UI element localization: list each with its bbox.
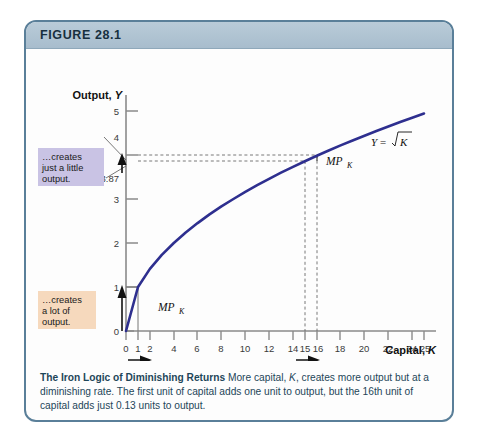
mpk-label-right: MP K (325, 155, 353, 170)
curve-label: Y= K (371, 132, 412, 148)
svg-text:MP: MP (325, 155, 343, 167)
x-tick-label-8: 8 (218, 343, 223, 354)
x-tick-label-10: 10 (240, 343, 251, 354)
y-tick-label-0: 0 (114, 326, 119, 337)
x-tick-label-16: 16 (313, 343, 324, 354)
svg-text:K: K (178, 307, 185, 316)
svg-text:K: K (346, 161, 353, 170)
arrow-sixteenth-unit-icon (296, 356, 320, 362)
figure-header-bar: FIGURE 28.1 (26, 22, 452, 49)
x-tick-label-14: 14 (288, 343, 299, 354)
note-lots-output-line-2: a lot of (42, 306, 70, 316)
figure-panel: FIGURE 28.1 0 1 2 3 4 5 3.87 (24, 20, 454, 422)
figure-title: FIGURE 28.1 (40, 28, 122, 42)
x-tick-label-20: 20 (359, 343, 370, 354)
mpk-label-left: MP K (157, 301, 185, 316)
x-tick-label-4: 4 (171, 343, 176, 354)
figure-caption: The Iron Logic of Diminishing Returns Mo… (40, 371, 444, 414)
caption-title: The Iron Logic of Diminishing Returns (40, 372, 225, 383)
note-lots-output-line-1: …creates (42, 295, 82, 305)
chart-plot-area: 0 1 2 3 4 5 3.87 (26, 49, 454, 361)
y-tick-label-5: 5 (114, 106, 119, 117)
x-tick-label-6: 6 (194, 343, 199, 354)
arrow-first-unit-icon (128, 356, 152, 362)
diminishing-returns-chart: 0 1 2 3 4 5 3.87 (26, 49, 454, 361)
y-axis-title: Output, Y (73, 89, 124, 101)
svg-text:Y=: Y= (371, 136, 387, 148)
x-tick-label-12: 12 (264, 343, 275, 354)
caption-body-1: More capital, (228, 372, 289, 383)
svg-text:MP: MP (157, 301, 175, 313)
y-tick-label-2: 2 (114, 238, 119, 249)
note-little-output: …creates just a little output. (38, 148, 104, 186)
curve-label-radicand: K (399, 136, 408, 148)
note-lots-output: …creates a lot of output. (38, 291, 96, 329)
note-lots-output-line-3: output. (42, 317, 70, 327)
x-tick-label-2: 2 (147, 343, 152, 354)
x-tick-label-15: 15 (300, 343, 311, 354)
y-tick-label-3: 3 (114, 194, 119, 205)
note-little-output-line-1: …creates (42, 152, 82, 162)
x-axis-title: Capital, K (385, 344, 437, 356)
note-little-output-line-2: just a little (41, 163, 83, 173)
x-tick-label-18: 18 (335, 343, 346, 354)
x-tick-label-1: 1 (135, 343, 140, 354)
x-axis-ticks (126, 331, 424, 340)
x-tick-label-0: 0 (123, 343, 128, 354)
caption-var-k: K (289, 372, 296, 383)
y-tick-label-4: 4 (114, 132, 119, 143)
y-tick-label-1: 1 (114, 282, 119, 293)
note-little-output-line-3: output. (42, 174, 70, 184)
